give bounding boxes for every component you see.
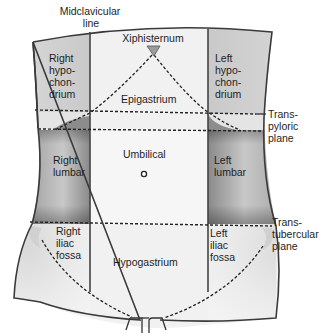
umbilicus-icon	[141, 171, 146, 176]
label-epigastrium: Epigastrium	[121, 93, 177, 105]
label-transtubercular-3: plane	[272, 240, 298, 252]
label-right-iliac-fossa-3: fossa	[56, 249, 81, 261]
abdominal-regions-diagram: Midclavicular line Xiphisternum Right hy…	[0, 0, 329, 336]
label-transpyloric-2: pyloric	[268, 120, 298, 132]
label-right-lumbar-1: Right	[53, 154, 78, 166]
label-right-iliac-fossa-1: Right	[56, 225, 81, 237]
label-left-iliac-fossa-1: Left	[210, 227, 228, 239]
umbilical-region	[90, 130, 208, 224]
label-right-hypochondrium-4: drium	[49, 88, 76, 100]
label-hypogastrium: Hypogastrium	[113, 256, 178, 268]
label-left-hypochondrium-1: Left	[215, 52, 233, 64]
label-right-iliac-fossa-2: iliac	[56, 237, 74, 249]
label-midclavicular-1: Midclavicular	[60, 5, 121, 17]
label-umbilical: Umbilical	[123, 148, 166, 160]
label-transpyloric-3: plane	[268, 132, 294, 144]
label-transpyloric-1: Trans-	[268, 108, 298, 120]
label-left-hypochondrium-3: chon-	[215, 76, 242, 88]
label-left-iliac-fossa-3: fossa	[210, 251, 235, 263]
label-transtubercular-1: Trans-	[272, 216, 302, 228]
label-left-lumbar-1: Left	[214, 154, 232, 166]
label-right-hypochondrium-2: hypo-	[49, 64, 76, 76]
label-left-lumbar-2: lumbar	[214, 166, 247, 178]
label-xiphisternum: Xiphisternum	[122, 32, 184, 44]
label-right-lumbar-2: lumbar	[53, 166, 86, 178]
right-iliac-fossa-region	[0, 224, 90, 334]
label-transtubercular-2: tubercular	[272, 228, 319, 240]
label-midclavicular-2: line	[83, 17, 100, 29]
label-left-hypochondrium-4: drium	[215, 88, 242, 100]
label-left-iliac-fossa-2: iliac	[210, 239, 228, 251]
label-left-hypochondrium-2: hypo-	[215, 64, 242, 76]
label-right-hypochondrium-1: Right	[49, 52, 74, 64]
label-right-hypochondrium-3: chon-	[49, 76, 76, 88]
